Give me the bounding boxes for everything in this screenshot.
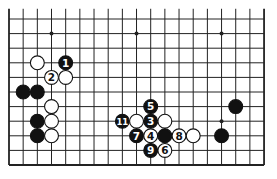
star-point — [135, 32, 139, 36]
white-stone: 4 — [144, 129, 158, 143]
star-point — [50, 32, 54, 36]
black-stone — [158, 129, 172, 143]
move-number-label: 9 — [147, 144, 154, 156]
white-stone: 6 — [158, 143, 172, 157]
black-stone — [30, 129, 44, 143]
white-stone — [130, 114, 144, 128]
star-point — [220, 119, 224, 123]
black-stone: 3 — [144, 114, 158, 128]
black-stone: 9 — [144, 143, 158, 157]
white-stone — [45, 100, 59, 114]
white-stone — [59, 70, 73, 84]
black-stone — [229, 100, 243, 114]
white-stone — [45, 114, 59, 128]
move-number-label: 11 — [116, 117, 128, 127]
move-number-label: 1 — [62, 57, 69, 69]
white-stone: 2 — [45, 70, 59, 84]
move-number-label: 7 — [133, 130, 140, 142]
move-number-label: 8 — [175, 130, 182, 142]
move-number-label: 4 — [147, 130, 154, 142]
black-stone: 1 — [59, 56, 73, 70]
star-point — [220, 32, 224, 36]
black-stone: 11 — [115, 114, 129, 128]
black-stone: 7 — [130, 129, 144, 143]
black-stone — [30, 114, 44, 128]
move-number-label: 2 — [48, 71, 55, 83]
white-stone: 8 — [172, 129, 186, 143]
move-number-label: 3 — [147, 115, 154, 127]
white-stone — [45, 129, 59, 143]
move-number-label: 5 — [147, 100, 154, 112]
white-stone — [30, 56, 44, 70]
go-board-diagram: 12511374896 — [0, 0, 277, 179]
white-stone — [186, 129, 200, 143]
black-stone: 5 — [144, 100, 158, 114]
black-stone — [215, 129, 229, 143]
black-stone — [30, 85, 44, 99]
black-stone — [16, 85, 30, 99]
move-number-label: 6 — [161, 144, 168, 156]
white-stone — [158, 114, 172, 128]
